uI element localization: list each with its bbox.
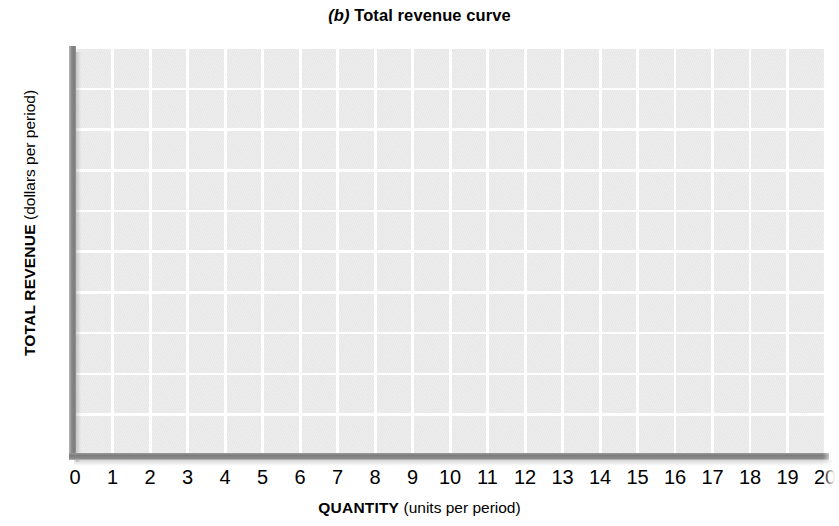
x-axis-tick-label: 5	[243, 466, 283, 488]
x-axis-tick-label: 4	[205, 466, 245, 488]
x-axis-tick-label: 7	[318, 466, 358, 488]
x-axis-tick-label: 20	[805, 466, 839, 488]
gridlines	[75, 48, 825, 455]
x-axis-title-main: QUANTITY	[318, 499, 399, 516]
x-axis-title: QUANTITY (units per period)	[0, 499, 839, 517]
x-axis-tick-label: 0	[55, 466, 95, 488]
plot-area	[75, 48, 825, 455]
x-axis-tick-label: 11	[468, 466, 508, 488]
x-axis-tick-label: 16	[655, 466, 695, 488]
y-axis-title-main: TOTAL REVENUE	[21, 224, 38, 356]
panel-letter: (b)	[328, 6, 349, 24]
y-axis-title: TOTAL REVENUE (dollars per period)	[21, 13, 39, 433]
x-axis-tick-label: 10	[430, 466, 470, 488]
x-axis-tick-label: 6	[280, 466, 320, 488]
x-axis-tick-label: 17	[693, 466, 733, 488]
x-axis-tick-label: 14	[580, 466, 620, 488]
x-axis-tick-label: 9	[393, 466, 433, 488]
x-axis-tick-label: 19	[768, 466, 808, 488]
scan-edge-fade	[823, 0, 839, 526]
x-axis-tick-label: 8	[355, 466, 395, 488]
y-axis-shadow	[76, 52, 81, 462]
x-axis-tick-label: 2	[130, 466, 170, 488]
x-axis-tick-label: 3	[168, 466, 208, 488]
y-axis-title-units: (dollars per period)	[21, 90, 38, 224]
x-axis-tick-label: 18	[730, 466, 770, 488]
x-axis-tick-label: 15	[618, 466, 658, 488]
y-axis-line	[69, 46, 76, 460]
x-axis-title-units: (units per period)	[399, 499, 520, 516]
scan-grain-overlay	[75, 48, 825, 455]
chart-title-text: Total revenue curve	[350, 6, 511, 24]
x-axis-line	[69, 453, 829, 460]
x-axis-tick-label: 12	[505, 466, 545, 488]
x-axis-tick-label: 1	[93, 466, 133, 488]
x-axis-tick-label: 13	[543, 466, 583, 488]
chart-title: (b) Total revenue curve	[0, 6, 839, 25]
